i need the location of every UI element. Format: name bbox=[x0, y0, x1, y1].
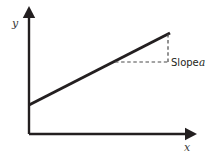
x-axis-label: x bbox=[184, 141, 191, 154]
x-axis-arrowhead-icon bbox=[185, 128, 197, 140]
slope-figure: y x Slope a bbox=[0, 0, 209, 158]
slope-line bbox=[29, 33, 170, 105]
slope-annotation-label: Slope bbox=[171, 57, 199, 68]
y-axis-arrowhead-icon bbox=[23, 6, 35, 18]
y-axis-label: y bbox=[11, 17, 19, 30]
graph-canvas: y x Slope a bbox=[0, 0, 209, 158]
slope-annotation-variable: a bbox=[199, 56, 205, 68]
